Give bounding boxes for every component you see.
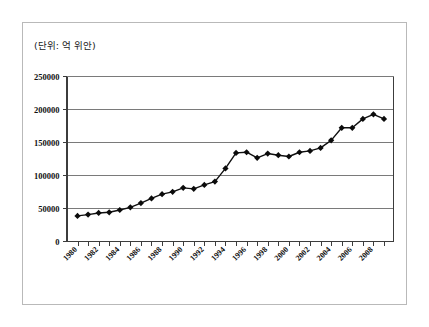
data-point-marker [244, 149, 250, 155]
data-point-marker [138, 200, 144, 206]
data-point-marker [254, 155, 260, 161]
x-tick-label: 2000 [273, 245, 291, 263]
x-tick-label: 1998 [251, 245, 269, 263]
data-point-marker [117, 207, 123, 213]
data-point-marker [106, 209, 112, 215]
y-axis-labels: 050000100000150000200000250000 [34, 72, 60, 247]
data-point-marker [296, 149, 302, 155]
data-point-marker [148, 195, 154, 201]
x-tick-label: 1994 [209, 245, 227, 263]
data-point-marker [275, 152, 281, 158]
y-tick-label: 200000 [34, 105, 60, 115]
axis-lines [67, 76, 395, 242]
gridlines [67, 77, 395, 209]
y-tick-label: 100000 [34, 171, 60, 181]
y-tick-label: 50000 [38, 204, 59, 214]
y-tick-label: 0 [55, 237, 59, 247]
data-point-marker [191, 186, 197, 192]
x-tick-label: 1992 [188, 245, 206, 263]
data-point-marker [170, 189, 176, 195]
x-tick-label: 2004 [315, 245, 333, 263]
data-point-marker [180, 185, 186, 191]
data-point-marker [370, 111, 376, 117]
data-point-marker [85, 212, 91, 218]
data-point-marker [265, 150, 271, 156]
data-point-marker [96, 210, 102, 216]
series-line [78, 114, 385, 216]
x-tick-label: 1996 [230, 245, 248, 263]
x-tick-label: 1984 [104, 245, 122, 263]
x-tick-label: 1980 [61, 245, 79, 263]
data-markers [74, 111, 387, 219]
line-chart: 050000100000150000200000250000 198019821… [0, 0, 429, 327]
y-tick-label: 150000 [34, 138, 60, 148]
x-tick-label: 1986 [125, 245, 143, 263]
x-tick-label: 1990 [167, 245, 185, 263]
x-axis-labels: 1980198219841986198819901992199419961998… [61, 245, 375, 263]
x-tick-label: 1988 [146, 245, 164, 263]
y-axis-ticks [63, 77, 67, 242]
data-point-marker [127, 204, 133, 210]
data-point-marker [159, 191, 165, 197]
x-tick-label: 1982 [82, 245, 100, 263]
data-point-marker [201, 182, 207, 188]
x-tick-label: 2006 [336, 245, 354, 263]
data-point-marker [286, 153, 292, 159]
data-point-marker [381, 116, 387, 122]
data-point-marker [74, 213, 80, 219]
x-tick-label: 2002 [294, 245, 312, 263]
y-tick-label: 250000 [34, 72, 60, 82]
figure-root: (단위: 억 위안) 05000010000015000020000025000… [0, 0, 429, 327]
x-tick-label: 2008 [357, 245, 375, 263]
data-series [78, 114, 385, 216]
data-point-marker [307, 148, 313, 154]
